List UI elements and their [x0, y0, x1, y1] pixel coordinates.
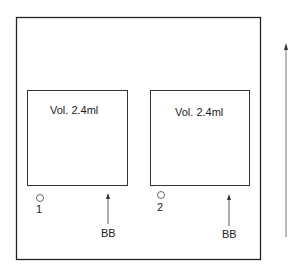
direction-arrowhead-icon — [284, 43, 288, 50]
gel-diagram — [0, 0, 300, 278]
bb-arrowhead-2-icon — [227, 194, 231, 200]
outer-plate — [17, 18, 261, 260]
lane-1-marker-label: BB — [101, 227, 116, 239]
well-1-circle — [37, 195, 44, 202]
well-2-number: 2 — [157, 201, 163, 213]
bb-arrowhead-1-icon — [106, 193, 110, 199]
lane-2-marker-label: BB — [222, 228, 237, 240]
lane-2-volume-label: Vol. 2.4ml — [175, 106, 223, 118]
well-2-circle — [158, 192, 165, 199]
well-1-number: 1 — [36, 203, 42, 215]
lane-1-volume-label: Vol. 2.4ml — [50, 104, 98, 116]
lane-2-box — [151, 91, 250, 186]
